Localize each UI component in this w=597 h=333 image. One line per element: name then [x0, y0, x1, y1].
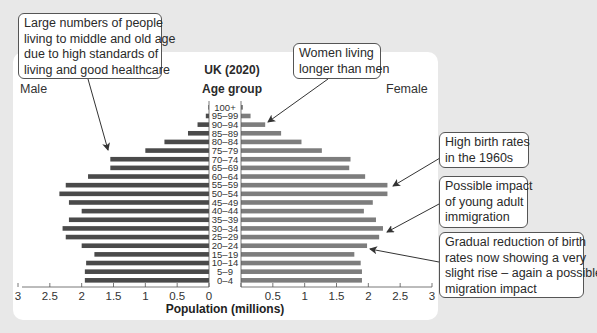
x-tick-label: 1.5 — [329, 290, 345, 302]
female-bar — [241, 226, 383, 231]
female-bar — [241, 209, 364, 214]
female-bar — [241, 278, 362, 283]
x-tick-label: 0.5 — [265, 290, 281, 302]
female-bar — [241, 174, 365, 179]
male-bar — [145, 148, 209, 153]
annotation-arrow — [88, 79, 108, 150]
female-bar — [241, 261, 361, 266]
x-tick-label: 3 — [15, 290, 21, 302]
x-tick-label: 0 — [206, 290, 212, 302]
male-bar — [63, 226, 209, 231]
male-bar — [66, 235, 209, 240]
female-bar — [241, 192, 387, 197]
callout-women-longer: Women living longer than men — [293, 43, 381, 79]
male-bar — [110, 157, 209, 162]
x-tick-label: 1.5 — [106, 290, 122, 302]
female-bar — [241, 200, 373, 205]
male-bar — [82, 209, 209, 214]
annotation-arrow — [268, 79, 328, 122]
male-bar — [88, 174, 209, 179]
x-tick-label: 2.5 — [392, 290, 408, 302]
male-bar — [198, 122, 209, 127]
x-tick-label: 3 — [429, 290, 435, 302]
female-bar — [241, 269, 362, 274]
female-bar — [241, 148, 322, 153]
female-bar — [241, 183, 387, 188]
x-tick-label: 1 — [301, 290, 307, 302]
female-bar — [241, 140, 301, 145]
annotation-arrow — [387, 204, 439, 232]
female-bar — [241, 166, 349, 171]
male-bar — [164, 140, 209, 145]
x-tick-label: 1 — [142, 290, 148, 302]
male-bar — [110, 166, 209, 171]
female-bar — [241, 114, 251, 119]
female-bar — [241, 217, 376, 222]
callout-birth-1960s: High birth rates in the 1960s — [439, 132, 529, 168]
female-bar — [241, 243, 367, 248]
male-bar — [188, 131, 209, 136]
male-bar — [82, 243, 209, 248]
annotation-arrows — [88, 79, 440, 262]
callout-old-age: Large numbers of people living to middle… — [18, 13, 162, 79]
female-bar — [241, 157, 351, 162]
female-bar — [241, 131, 281, 136]
male-bar — [94, 252, 209, 257]
x-axis-title: Population (millions) — [166, 302, 285, 316]
female-bar — [241, 235, 379, 240]
callout-immigration: Possible impact of young adult immigrati… — [439, 176, 528, 228]
male-bar — [86, 261, 209, 266]
annotation-arrow — [393, 158, 440, 186]
male-bar — [206, 114, 209, 119]
age-label: 0–4 — [217, 275, 233, 286]
callout-birth-reduction: Gradual reduction of birth rates now sho… — [439, 232, 584, 298]
female-bar — [241, 252, 354, 257]
x-tick-label: 0.5 — [169, 290, 185, 302]
x-tick-label: 2 — [365, 290, 371, 302]
x-tick-label: 2.5 — [42, 290, 58, 302]
female-bar — [241, 122, 265, 127]
male-bar — [85, 269, 209, 274]
male-bar — [69, 200, 209, 205]
annotation-arrow — [370, 249, 439, 262]
male-bar — [69, 217, 209, 222]
male-bar — [85, 278, 209, 283]
male-bar — [66, 183, 209, 188]
x-tick-label: 2 — [78, 290, 84, 302]
male-bar — [59, 192, 209, 197]
age-labels-group: 100+95–9990–9485–8980–8475–7970–7465–696… — [212, 102, 238, 286]
